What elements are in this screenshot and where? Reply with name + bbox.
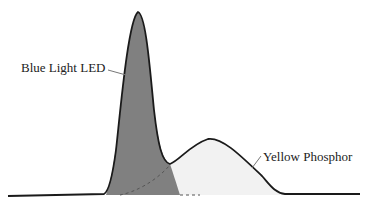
blue-light-led-label: Blue Light LED xyxy=(21,61,106,74)
blue-label-leader-line xyxy=(108,70,126,75)
yellow-label-leader-line xyxy=(252,156,261,168)
spectrum-svg xyxy=(0,0,383,208)
spectrum-diagram: Blue Light LED Yellow Phosphor xyxy=(0,0,383,208)
yellow-phosphor-label: Yellow Phosphor xyxy=(263,150,352,163)
blue-led-area xyxy=(106,12,180,195)
